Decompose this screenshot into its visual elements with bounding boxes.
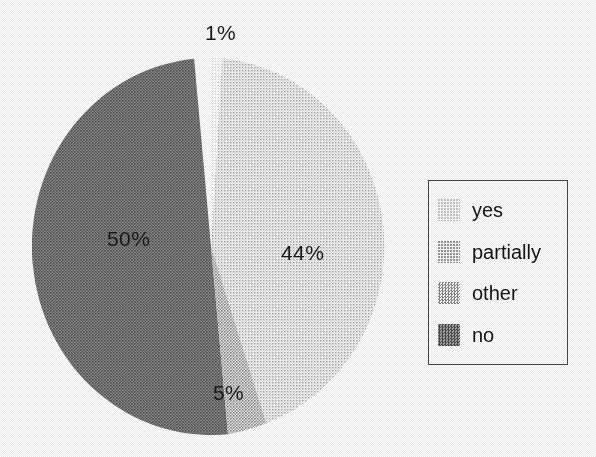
pie-svg <box>32 58 390 435</box>
legend-item-partially: partially <box>429 234 567 270</box>
pie-label-no: 50% <box>107 228 150 249</box>
legend-label-no: no <box>472 325 494 345</box>
legend-swatch-other-icon <box>438 282 460 304</box>
legend-item-no: no <box>429 317 567 353</box>
legend-label-other: other <box>472 283 518 303</box>
legend-label-yes: yes <box>472 200 503 220</box>
legend-label-partially: partially <box>472 242 541 262</box>
pie-label-other: 5% <box>213 382 244 403</box>
legend-swatch-partially-icon <box>438 241 460 263</box>
pie-label-partially: 44% <box>281 242 324 263</box>
legend-item-other: other <box>429 275 567 311</box>
chart-legend: yes partially other no <box>428 180 568 365</box>
legend-item-yes: yes <box>429 192 567 228</box>
legend-swatch-no-icon <box>438 324 460 346</box>
pie-label-yes: 1% <box>205 22 236 43</box>
legend-swatch-yes-icon <box>438 199 460 221</box>
pie-chart-graphic <box>32 58 390 435</box>
pie-chart-figure: 1% 50% 44% 5% yes partially other no <box>0 0 596 457</box>
